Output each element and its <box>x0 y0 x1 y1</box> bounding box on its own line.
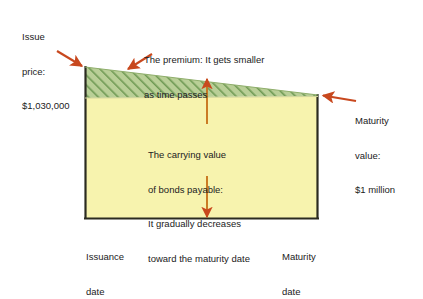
maturity-value-line-1: Maturity <box>355 115 395 127</box>
issue-price-label: Issue price: $1,030,000 <box>22 8 70 135</box>
carrying-value-line-1: The carrying value <box>148 149 250 161</box>
maturity-value-line-3: $1 million <box>355 184 395 196</box>
carrying-value-label: The carrying value of bonds payable: It … <box>148 126 250 287</box>
issuance-date-label: Issuance date <box>86 228 124 299</box>
issuance-date-line-2: date <box>86 286 124 298</box>
maturity-value-arrow <box>323 96 356 102</box>
carrying-value-line-4: toward the maturity date <box>148 253 250 265</box>
maturity-date-line-1: Maturity <box>282 251 316 263</box>
maturity-date-line-2: date <box>282 286 316 298</box>
maturity-value-line-2: value: <box>355 150 395 162</box>
maturity-value-label: Maturity value: $1 million <box>355 92 395 219</box>
premium-line-1: The premium: It gets smaller <box>144 54 264 66</box>
issuance-date-line-1: Issuance <box>86 251 124 263</box>
carrying-value-line-2: of bonds payable: <box>148 184 250 196</box>
issue-price-line-3: $1,030,000 <box>22 100 70 112</box>
issue-price-line-2: price: <box>22 66 70 78</box>
premium-line-2: as time passes <box>144 89 264 101</box>
premium-label: The premium: It gets smaller as time pas… <box>144 31 264 123</box>
carrying-value-line-3: It gradually decreases <box>148 218 250 230</box>
maturity-date-label: Maturity date <box>282 228 316 299</box>
issue-price-line-1: Issue <box>22 31 70 43</box>
